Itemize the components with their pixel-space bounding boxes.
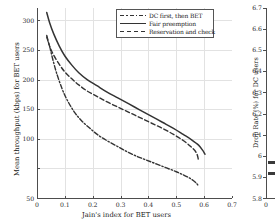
- figure-root: 50 100 150 200 250 300 0 0.1 0.2 0.3 0.4…: [0, 0, 275, 224]
- series-reservation-and-check: [47, 35, 199, 160]
- legend-swatch-solid-icon: [119, 20, 147, 28]
- right-x-axis-line: [266, 198, 275, 199]
- legend-label: Reservation and check: [149, 28, 215, 35]
- legend-row: DC first, then BET: [119, 12, 211, 20]
- right-y-tick: [263, 135, 266, 136]
- right-y-axis-title: Drop Rate (%) for DC users: [252, 57, 260, 148]
- bar-segment: [268, 172, 276, 175]
- legend-swatch-dash-icon: [119, 28, 147, 36]
- legend-box: DC first, then BET Fair preemption Reser…: [116, 9, 214, 38]
- right-y-tick-label: 6: [242, 152, 262, 159]
- right-y-tick-label: 6.5: [242, 46, 262, 53]
- right-y-tick-label: 5.9: [242, 173, 262, 180]
- right-y-tick-label: 6.7: [242, 4, 262, 11]
- right-y-tick: [263, 198, 266, 199]
- legend-label: DC first, then BET: [149, 12, 202, 19]
- series-dc-first-then-bet: [47, 37, 199, 186]
- right-y-tick: [263, 92, 266, 93]
- right-y-tick-label: 6.6: [242, 25, 262, 32]
- right-y-axis-line: [266, 8, 267, 199]
- right-x-tick-label: 0: [256, 201, 275, 208]
- right-y-tick: [263, 29, 266, 30]
- right-y-tick: [263, 177, 266, 178]
- right-y-tick: [263, 8, 266, 9]
- main-plot-panel: 50 100 150 200 250 300 0 0.1 0.2 0.3 0.4…: [0, 0, 240, 224]
- right-x-tick: [266, 196, 267, 199]
- bar-segment: [268, 161, 276, 164]
- legend-row: Fair preemption: [119, 20, 211, 28]
- right-y-tick: [263, 50, 266, 51]
- legend-swatch-dashdot-icon: [119, 12, 147, 20]
- right-plot-panel: 5.8 5.9 6 6.1 6.2 6.3 6.4 6.5 6.6 6.7 Dr…: [240, 0, 275, 224]
- right-y-tick: [263, 114, 266, 115]
- legend-label: Fair preemption: [149, 20, 196, 27]
- legend-row: Reservation and check: [119, 28, 211, 36]
- right-y-tick: [263, 156, 266, 157]
- right-y-tick: [263, 71, 266, 72]
